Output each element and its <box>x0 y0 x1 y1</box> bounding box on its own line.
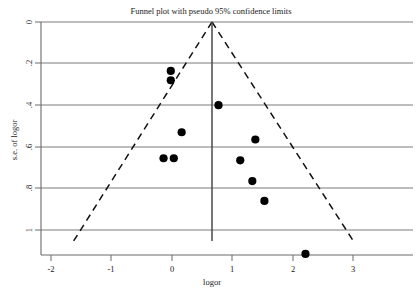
ytick-label-0.4: .4 <box>24 101 34 108</box>
xtick-label--2: -2 <box>47 264 54 274</box>
ytick-label-0.6: .6 <box>24 144 34 150</box>
xtick-label-2: 2 <box>291 264 295 274</box>
funnel-plot-canvas: Funnel plot with pseudo 95% confidence l… <box>0 0 419 292</box>
xtick-label-0: 0 <box>170 264 174 274</box>
chart-title: Funnel plot with pseudo 95% confidence l… <box>130 6 291 16</box>
xtick-label-3: 3 <box>351 264 355 274</box>
data-point <box>248 177 256 185</box>
funnel-left-limit <box>73 22 212 242</box>
data-point <box>301 250 309 258</box>
data-point <box>159 154 167 162</box>
y-axis-label: s.e. of logor <box>9 120 19 161</box>
data-point <box>260 197 268 205</box>
ytick-label-0: 0 <box>24 20 34 24</box>
data-point <box>251 135 259 143</box>
xtick-label-1: 1 <box>230 264 234 274</box>
x-axis-label: logor <box>203 277 221 287</box>
ytick-label-0.2: .2 <box>24 60 34 66</box>
funnel-plot-figure: Funnel plot with pseudo 95% confidence l… <box>0 0 419 292</box>
ytick-label-0.8: .8 <box>24 185 34 191</box>
data-point <box>178 128 186 136</box>
data-point <box>167 76 175 84</box>
data-point <box>236 156 244 164</box>
data-point <box>214 101 222 109</box>
xtick-label--1: -1 <box>107 264 114 274</box>
x-axis-tick-labels: -2 -1 0 1 2 3 <box>47 264 355 274</box>
data-points-layer <box>159 67 309 258</box>
data-point <box>167 67 175 75</box>
gridlines <box>41 22 413 230</box>
funnel-confidence-limits <box>73 22 354 242</box>
data-point <box>170 154 178 162</box>
ytick-label-1: 1 <box>24 228 34 232</box>
funnel-right-limit <box>212 22 354 242</box>
y-axis-ticks <box>35 22 41 230</box>
plot-frame <box>41 22 413 255</box>
y-axis-tick-labels: 0 .2 .4 .6 .8 1 <box>24 20 34 232</box>
